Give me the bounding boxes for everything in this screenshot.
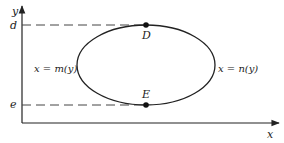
level-label-bottom: e: [10, 98, 17, 111]
point-label-E: E: [141, 88, 150, 101]
region-diagram: y x d e D E x = m(y) x = n(y): [0, 0, 284, 143]
y-axis-label: y: [11, 5, 19, 18]
point-E: [143, 102, 149, 108]
point-label-D: D: [141, 29, 151, 42]
level-label-top: d: [10, 19, 17, 32]
point-D: [143, 22, 149, 28]
curve-label-left: x = m(y): [34, 63, 77, 74]
x-axis-label: x: [267, 128, 274, 141]
curve-label-right: x = n(y): [218, 63, 258, 74]
